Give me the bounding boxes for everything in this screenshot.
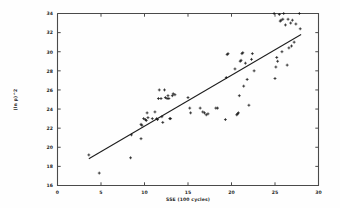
- x-tick-label: 10: [141, 190, 148, 195]
- x-tick-label: 20: [228, 190, 235, 195]
- y-axis-title: (ln p)^2: [13, 89, 18, 111]
- scatter-plot: 051015202530 16182022242628303234 SSE (1…: [0, 0, 340, 208]
- y-tick-label: 30: [46, 50, 53, 55]
- x-axis-title: SSE (100 cycles): [166, 197, 210, 202]
- y-tick-label: 32: [46, 30, 53, 35]
- y-tick-label: 28: [46, 69, 53, 74]
- x-tick-label: 25: [272, 190, 279, 195]
- y-tick-label: 20: [46, 145, 53, 150]
- y-tick-label: 18: [46, 164, 53, 169]
- chart-screenshot: 051015202530 16182022242628303234 SSE (1…: [0, 0, 340, 208]
- y-tick-label: 24: [46, 107, 53, 112]
- x-tick-label: 0: [56, 190, 59, 195]
- x-tick-label: 15: [185, 190, 192, 195]
- y-tick-label: 16: [46, 183, 53, 188]
- y-tick-label: 22: [46, 126, 53, 131]
- y-tick-label: 34: [46, 11, 53, 16]
- y-tick-label: 26: [46, 88, 53, 93]
- x-tick-label: 5: [99, 190, 102, 195]
- x-tick-label: 30: [315, 190, 322, 195]
